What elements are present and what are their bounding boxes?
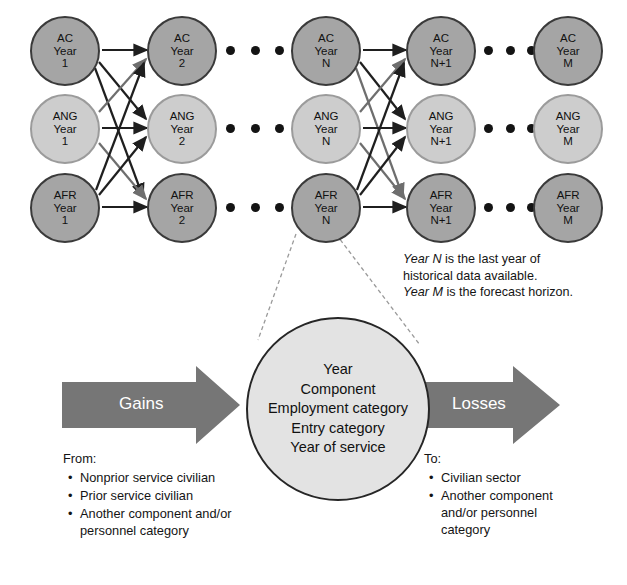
node-afr-yearM[interactable]: AFR Year M <box>533 173 603 243</box>
node-component: AC <box>57 32 73 44</box>
cell-dimension-year: Year <box>323 360 352 379</box>
dot <box>484 124 493 133</box>
dot <box>275 46 284 55</box>
ellipsis-ac-1 <box>226 46 284 55</box>
ellipsis-ang-2 <box>484 124 536 133</box>
dot <box>484 203 493 212</box>
node-line2: Year <box>171 45 194 57</box>
node-line3: M <box>563 214 572 226</box>
year-n-rest: is the last year of <box>442 252 541 266</box>
node-line2: Year <box>171 202 194 214</box>
node-line3: 1 <box>62 214 68 226</box>
node-line2: Year <box>430 202 453 214</box>
dot <box>275 203 284 212</box>
node-component: AC <box>560 32 576 44</box>
node-ang-year1[interactable]: ANG Year 1 <box>30 94 100 164</box>
node-line2: Year <box>54 123 77 135</box>
node-line3: N+1 <box>430 135 451 147</box>
dot <box>484 46 493 55</box>
node-component: ANG <box>170 110 195 122</box>
horizon-note-line3: Year M is the forecast horizon. <box>403 284 618 301</box>
node-ac-year1[interactable]: AC Year 1 <box>30 16 100 86</box>
ellipsis-afr-1 <box>226 203 284 212</box>
dot <box>506 46 515 55</box>
node-component: AFR <box>54 189 77 201</box>
ellipsis-ang-1 <box>226 124 284 133</box>
edges-yearN-to-yearN1 <box>356 50 406 207</box>
node-line2: Year <box>54 202 77 214</box>
list-item: Prior service civilian <box>80 487 238 504</box>
node-ang-yearN1[interactable]: ANG Year N+1 <box>406 94 476 164</box>
node-line2: Year <box>315 45 338 57</box>
dot <box>251 46 260 55</box>
node-afr-year1[interactable]: AFR Year 1 <box>30 173 100 243</box>
node-ang-yearM[interactable]: ANG Year M <box>533 94 603 164</box>
dot <box>251 124 260 133</box>
node-line3: N+1 <box>430 214 451 226</box>
node-afr-year2[interactable]: AFR Year 2 <box>147 173 217 243</box>
horizon-note: Year N is the last year of historical da… <box>403 251 618 301</box>
node-line3: N <box>322 214 330 226</box>
dot <box>506 203 515 212</box>
from-lead: From: <box>63 450 238 467</box>
list-item: Nonprior service civilian <box>80 469 238 486</box>
node-component: ANG <box>556 110 581 122</box>
node-line3: 1 <box>62 135 68 147</box>
gains-label: Gains <box>119 394 163 414</box>
node-line2: Year <box>54 45 77 57</box>
dot <box>226 46 235 55</box>
to-list: Civilian sector Another component and/or… <box>424 469 589 538</box>
node-ac-yearN[interactable]: AC Year N <box>291 16 361 86</box>
node-ac-year2[interactable]: AC Year 2 <box>147 16 217 86</box>
inventory-cell-circle[interactable]: Year Component Employment category Entry… <box>246 317 430 501</box>
node-ac-yearM[interactable]: AC Year M <box>533 16 603 86</box>
node-component: ANG <box>429 110 454 122</box>
node-afr-yearN[interactable]: AFR Year N <box>291 173 361 243</box>
node-component: AFR <box>171 189 194 201</box>
dot <box>275 124 284 133</box>
year-n-term: Year N <box>403 252 442 266</box>
cell-dimension-employment-category: Employment category <box>268 399 408 418</box>
node-line3: 2 <box>179 57 185 69</box>
dot <box>226 124 235 133</box>
node-afr-yearN1[interactable]: AFR Year N+1 <box>406 173 476 243</box>
node-ang-year2[interactable]: ANG Year 2 <box>147 94 217 164</box>
node-component: AFR <box>430 189 453 201</box>
node-line3: M <box>563 57 572 69</box>
horizon-note-line1: Year N is the last year of <box>403 251 618 268</box>
node-line3: 2 <box>179 135 185 147</box>
node-component: AC <box>174 32 190 44</box>
list-item: Civilian sector <box>441 469 589 486</box>
list-item: Another component and/or personnel categ… <box>441 487 589 538</box>
node-line3: M <box>563 135 572 147</box>
dot <box>226 203 235 212</box>
node-line3: N <box>322 135 330 147</box>
year-m-term: Year M <box>403 285 443 299</box>
node-line2: Year <box>557 202 580 214</box>
node-ac-yearN1[interactable]: AC Year N+1 <box>406 16 476 86</box>
losses-label: Losses <box>452 394 506 414</box>
from-list: Nonprior service civilian Prior service … <box>63 469 238 539</box>
ellipsis-ac-2 <box>484 46 536 55</box>
dot <box>251 203 260 212</box>
edges-year1-to-year2 <box>95 50 147 207</box>
node-component: AFR <box>557 189 580 201</box>
from-block: From: Nonprior service civilian Prior se… <box>63 450 238 540</box>
cell-dimension-year-of-service: Year of service <box>290 438 385 457</box>
to-lead: To: <box>424 450 589 467</box>
node-line3: N <box>322 57 330 69</box>
node-ang-yearN[interactable]: ANG Year N <box>291 94 361 164</box>
node-line2: Year <box>430 123 453 135</box>
to-block: To: Civilian sector Another component an… <box>424 450 589 539</box>
node-component: ANG <box>314 110 339 122</box>
node-line2: Year <box>557 45 580 57</box>
node-line2: Year <box>315 202 338 214</box>
node-line2: Year <box>430 45 453 57</box>
ellipsis-afr-2 <box>484 203 536 212</box>
diagram-root: AC Year 1 ANG Year 1 AFR Year 1 AC Year … <box>0 0 627 585</box>
horizon-note-line2: historical data available. <box>403 268 618 285</box>
cell-dimension-component: Component <box>301 380 376 399</box>
list-item: Another component and/or personnel categ… <box>80 505 238 539</box>
node-component: AC <box>433 32 449 44</box>
node-component: AC <box>318 32 334 44</box>
